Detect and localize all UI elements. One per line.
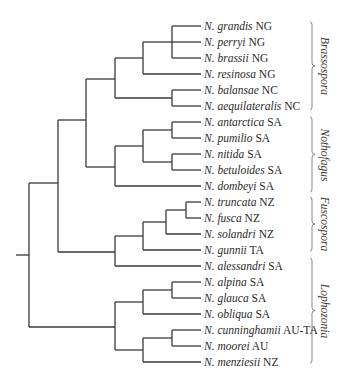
taxon-label: N. alpina SA: [204, 275, 264, 289]
taxon-label: N. perryi NG: [204, 35, 265, 49]
region-code: NZ: [256, 196, 274, 208]
taxon-label: N. antarctica SA: [204, 115, 282, 129]
species-name: N. pumilio: [204, 132, 253, 144]
clade-label-fuscospora: Fuscospora: [319, 197, 331, 251]
taxon-label: N. moorei AU: [204, 339, 268, 353]
taxon-label: N. truncata NZ: [204, 195, 275, 209]
region-code: NZ: [242, 212, 260, 224]
region-code: AU: [250, 340, 269, 352]
region-code: TA: [247, 244, 264, 256]
region-code: NC: [281, 100, 300, 112]
clade-bracket: [310, 22, 315, 110]
species-name: N. glauca: [204, 292, 249, 304]
taxon-label: N. fusca NZ: [204, 211, 260, 225]
region-code: SA: [264, 116, 282, 128]
species-name: N. resinosa: [204, 68, 256, 80]
region-code: NZ: [256, 228, 274, 240]
clade-label-nothofagus: Nothofagus: [319, 128, 331, 181]
region-code: SA: [265, 164, 283, 176]
region-code: SA: [265, 260, 283, 272]
region-code: NG: [249, 52, 269, 64]
species-name: N. cunninghamii: [204, 324, 281, 336]
species-name: N. gunnii: [204, 244, 247, 256]
region-code: SA: [249, 292, 267, 304]
taxon-label: N. dombeyi SA: [204, 179, 274, 193]
species-name: N. moorei: [204, 340, 250, 352]
species-name: N. fusca: [204, 212, 242, 224]
species-name: N. truncata: [204, 196, 256, 208]
species-name: N. balansae: [204, 84, 259, 96]
taxon-label: N. pumilio SA: [204, 131, 270, 145]
taxon-label: N. betuloides SA: [204, 163, 282, 177]
species-name: N. solandri: [204, 228, 256, 240]
taxon-label: N. resinosa NG: [204, 67, 275, 81]
species-name: N. brassii: [204, 52, 249, 64]
region-code: NG: [256, 68, 276, 80]
region-code: AU-TA: [281, 324, 318, 336]
taxon-label: N. glauca SA: [204, 291, 266, 305]
region-code: NC: [259, 84, 278, 96]
region-code: SA: [253, 132, 271, 144]
species-name: N. grandis: [204, 20, 253, 32]
taxon-label: N. obliqua SA: [204, 307, 270, 321]
region-code: SA: [253, 308, 271, 320]
taxon-label: N. balansae NC: [204, 83, 278, 97]
taxon-label: N. nitida SA: [204, 147, 262, 161]
species-name: N. nitida: [204, 148, 244, 160]
region-code: SA: [256, 180, 274, 192]
taxon-label: N. brassii NG: [204, 51, 268, 65]
species-name: N. perryi: [204, 36, 246, 48]
taxon-label: N. menziesii NZ: [204, 355, 278, 369]
species-name: N. menziesii: [204, 356, 260, 368]
region-code: SA: [244, 148, 262, 160]
region-code: NZ: [260, 356, 278, 368]
region-code: SA: [247, 276, 265, 288]
taxon-label: N. cunninghamii AU-TA: [204, 323, 318, 337]
taxon-label: N. gunnii TA: [204, 243, 264, 257]
clade-bracket: [310, 258, 315, 363]
taxon-label: N. aequilateralis NC: [204, 99, 300, 113]
region-code: NG: [246, 36, 266, 48]
species-name: N. antarctica: [204, 116, 264, 128]
taxon-label: N. alessandri SA: [204, 259, 283, 273]
species-name: N. alessandri: [204, 260, 265, 272]
clade-label-lophozonia: Lophozonia: [319, 283, 331, 337]
species-name: N. dombeyi: [204, 180, 256, 192]
species-name: N. betuloides: [204, 164, 265, 176]
species-name: N. alpina: [204, 276, 247, 288]
taxon-label: N. solandri NZ: [204, 227, 274, 241]
species-name: N. aequilateralis: [204, 100, 281, 112]
clade-bracket: [310, 197, 315, 251]
clade-label-brassospora: Brassospora: [319, 37, 331, 95]
region-code: NG: [253, 20, 273, 32]
clade-bracket: [310, 117, 315, 192]
species-name: N. obliqua: [204, 308, 253, 320]
taxon-label: N. grandis NG: [204, 19, 272, 33]
